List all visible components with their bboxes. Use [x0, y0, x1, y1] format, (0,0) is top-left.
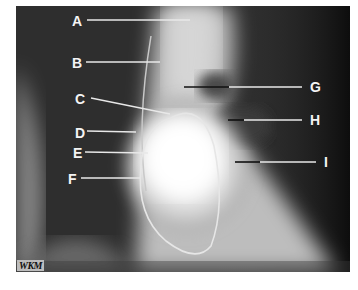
label-h: H [310, 113, 320, 127]
pointer-line-e [85, 152, 148, 153]
label-a: A [72, 14, 82, 28]
watermark-initials: WKM [17, 260, 44, 271]
label-b: B [72, 56, 82, 70]
label-d: D [75, 126, 85, 140]
radiograph-figure: A B C D E F G H I WKM [16, 6, 350, 272]
label-e: E [73, 146, 82, 160]
label-g: G [310, 80, 321, 94]
label-i: I [324, 155, 328, 169]
label-f: F [68, 172, 77, 186]
label-c: C [75, 92, 85, 106]
pointer-line-d [87, 131, 136, 132]
radiograph-image [16, 6, 350, 272]
